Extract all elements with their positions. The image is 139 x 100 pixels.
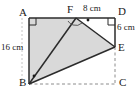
vertex-label-A: A: [19, 7, 27, 18]
vertex-label-F: F: [67, 4, 73, 15]
dimension-label-6cm: 6 cm: [117, 23, 135, 32]
vertex-label-D: D: [118, 6, 126, 17]
right-angle-D: [108, 18, 115, 25]
dot-mark-B: [33, 75, 36, 78]
dot-mark-F: [87, 19, 90, 22]
dimension-label-8cm: 8 cm: [83, 4, 101, 13]
dimension-label-16cm: 16 cm: [1, 43, 23, 52]
vertex-label-B: B: [19, 77, 26, 88]
vertex-label-C: C: [119, 77, 126, 88]
shaded-region-AFEB: [29, 18, 115, 84]
vertex-label-E: E: [118, 42, 125, 53]
